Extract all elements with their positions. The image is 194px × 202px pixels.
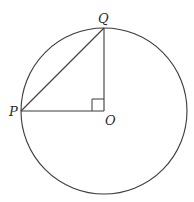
label-o: O [105, 113, 116, 128]
label-q: Q [98, 11, 109, 26]
right-angle-marker [92, 99, 104, 111]
label-p: P [8, 104, 18, 119]
geometry-diagram: Q P O [0, 0, 194, 202]
